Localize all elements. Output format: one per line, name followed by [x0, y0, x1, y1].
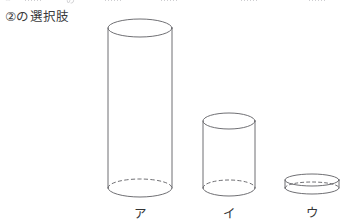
tall-cylinder	[108, 19, 172, 197]
cylinders-diagram	[0, 0, 352, 222]
flat-disk-bottom-front-arc	[285, 188, 339, 194]
flat-disk	[285, 174, 339, 194]
medium-cylinder-top-ellipse	[203, 113, 255, 129]
worksheet-figure-page: ① …… の …… …… …… …… ②の選択肢	[0, 0, 352, 222]
medium-cylinder-bottom-front-arc	[203, 188, 255, 196]
flat-disk-bottom-back-arc	[285, 182, 339, 188]
option-label-i: イ	[216, 203, 242, 222]
option-label-u: ウ	[299, 202, 325, 221]
option-label-a: ア	[127, 203, 153, 222]
medium-cylinder	[203, 113, 255, 196]
tall-cylinder-bottom-front-arc	[108, 188, 172, 197]
flat-disk-top-ellipse	[285, 174, 339, 186]
tall-cylinder-bottom-back-arc	[108, 179, 172, 188]
medium-cylinder-bottom-back-arc	[203, 180, 255, 188]
tall-cylinder-top-ellipse	[108, 19, 172, 37]
